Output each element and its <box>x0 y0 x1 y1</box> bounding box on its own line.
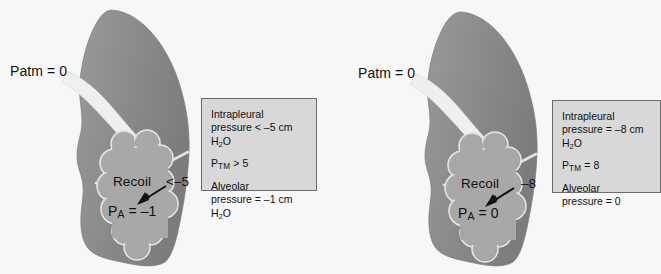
ptm-symbol-right: P <box>562 159 569 171</box>
intrapleural-value-right: pressure = –8 cm H2O <box>562 123 652 150</box>
ptm-subscript-right: TM <box>569 164 581 173</box>
alveolar-value-right: pressure = 0 <box>562 195 652 208</box>
ptm-subscript-left: TM <box>218 162 230 171</box>
ptm-symbol-left: P <box>211 157 218 169</box>
intrapleural-unit-left: O <box>223 135 231 147</box>
patm-label-left: Patm = 0 <box>10 64 67 79</box>
alveolar-pressure-label-right: PA = 0 <box>458 206 499 221</box>
alveolar-title-right: Alveolar <box>562 182 652 195</box>
patm-label-right: Patm = 0 <box>358 66 415 81</box>
ptm-value-right: = 8 <box>581 159 599 171</box>
ptm-block-right: PTM = 8 <box>562 159 652 172</box>
intrapleural-sub-left: 2 <box>219 140 223 149</box>
intrapleural-value-left: pressure < –5 cm H2O <box>211 121 308 148</box>
alveolar-value-left: pressure = –1 cm H2O <box>211 193 308 220</box>
info-box-left: Intrapleural pressure < –5 cm H2O PTM > … <box>201 98 317 191</box>
panel-left-lung: Patm = 0 Recoil <–5 PA = –1 Intrapleural… <box>0 0 330 274</box>
intrapleural-marker-right: –8 <box>521 177 536 192</box>
ptm-block-left: PTM > 5 <box>211 157 308 170</box>
intrapleural-block-right: Intrapleural pressure = –8 cm H2O <box>562 110 652 150</box>
alveolar-value-right: = 0 <box>474 205 498 221</box>
intrapleural-sub-right: 2 <box>570 142 574 151</box>
intrapleural-block-left: Intrapleural pressure < –5 cm H2O <box>211 108 308 148</box>
alveolar-subscript-left: A <box>117 209 124 220</box>
alveolar-title-left: Alveolar <box>211 180 308 193</box>
alveolar-pressure-label-left: PA = –1 <box>108 204 157 219</box>
ptm-value-left: > 5 <box>230 157 248 169</box>
recoil-label-right: Recoil <box>461 177 499 192</box>
alveolar-value-left: = –1 <box>124 203 156 219</box>
figure-canvas: Patm = 0 Recoil <–5 PA = –1 Intrapleural… <box>0 0 661 274</box>
alveolar-subscript-right: A <box>467 211 474 222</box>
alveolar-value-text-right: pressure = 0 <box>562 195 621 207</box>
alveolar-block-right: Alveolar pressure = 0 <box>562 182 652 209</box>
intrapleural-marker-left: <–5 <box>166 175 189 190</box>
intrapleural-unit-right: O <box>574 137 582 149</box>
alveolar-block-left: Alveolar pressure = –1 cm H2O <box>211 180 308 220</box>
recoil-label-left: Recoil <box>113 175 151 190</box>
intrapleural-title-right: Intrapleural <box>562 110 652 123</box>
info-box-right: Intrapleural pressure = –8 cm H2O PTM = … <box>552 100 661 193</box>
alveolar-sub-left: 2 <box>219 212 223 221</box>
intrapleural-title-left: Intrapleural <box>211 108 308 121</box>
alveolar-unit-left: O <box>223 207 231 219</box>
